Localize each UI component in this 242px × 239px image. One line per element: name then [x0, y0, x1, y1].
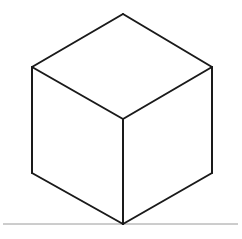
cube-illustration — [0, 0, 242, 239]
drawing-canvas — [0, 0, 242, 239]
